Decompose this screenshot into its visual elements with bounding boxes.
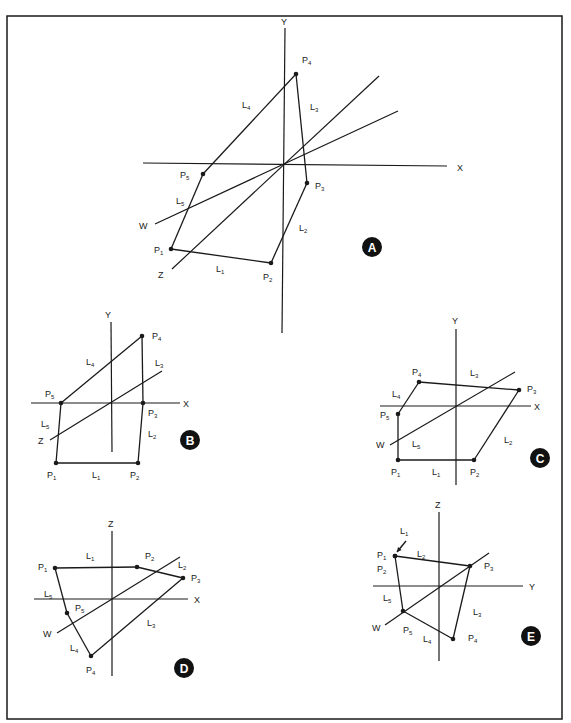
edge-label-l1: L1 (400, 526, 409, 537)
edge-label-l3: L3 (310, 102, 319, 113)
edge-label-l4: L4 (86, 357, 95, 368)
vertex-label-p1: P1 (38, 562, 48, 573)
edge-l1 (55, 567, 137, 568)
vertex-label-p4: P4 (86, 665, 96, 676)
edge-label-l5: L5 (412, 439, 421, 450)
vertex-label-p2: P2 (145, 551, 155, 562)
svg-text:B: B (186, 434, 195, 448)
panel-e: ZYWL1L2L3L4L5P1P2P3P4P5E (372, 500, 541, 661)
diagram-canvas: YXZWL1L2L3L4L5P1P2P3P4P5AYXZL1L2L3L4L5P1… (0, 0, 571, 723)
edge-label-l3: L3 (155, 358, 164, 369)
vertex-p5 (65, 611, 70, 616)
edge-label-l5: L5 (176, 196, 185, 207)
edge-label-l2: L2 (178, 560, 187, 571)
vertex-label-p2: P2 (470, 467, 480, 478)
vertex-label-p5: P5 (75, 603, 85, 614)
svg-text:D: D (180, 662, 189, 676)
vertex-label-p5: P5 (403, 625, 413, 636)
edge-label-l1: L1 (432, 467, 441, 478)
vertex-p2 (472, 458, 477, 463)
axis-label-z: Z (108, 519, 114, 529)
edge-l5 (395, 556, 403, 611)
axis-y (282, 28, 285, 333)
panel-d: ZXWL1L2L3L4L5P1P2P3P4P5D (34, 519, 201, 678)
edge-label-l1: L1 (216, 264, 225, 275)
edge-label-l2: L2 (417, 549, 426, 560)
svg-text:C: C (536, 452, 545, 466)
vertex-label-p2: P2 (377, 564, 387, 575)
axis-z (50, 371, 162, 440)
edge-l3 (296, 74, 307, 183)
axis-label-x: X (534, 402, 540, 412)
edge-label-l5: L5 (383, 593, 392, 604)
vertex-p4 (140, 334, 145, 339)
vertex-label-p3: P3 (484, 561, 494, 572)
svg-text:E: E (527, 630, 535, 644)
vertex-label-p1: P1 (47, 470, 57, 481)
vertex-p3 (141, 401, 146, 406)
edge-label-l5: L5 (44, 589, 53, 600)
edge-l2 (137, 567, 183, 578)
edge-label-l4: L4 (392, 389, 401, 400)
axis-label-w: W (43, 629, 52, 639)
vertex-p2 (136, 461, 141, 466)
vertex-label-p5: P5 (380, 410, 390, 421)
edge-label-l3: L3 (470, 368, 479, 379)
axis-label-y: Y (281, 17, 287, 27)
axis-label-w: W (139, 221, 148, 231)
vertex-p3 (305, 181, 310, 186)
vertex-p5 (396, 412, 401, 417)
vertex-p5 (201, 172, 206, 177)
panel-a: YXZWL1L2L3L4L5P1P2P3P4P5A (139, 17, 463, 333)
edge-label-l4: L4 (242, 100, 251, 111)
vertex-label-p3: P3 (315, 181, 325, 192)
vertex-p1 (53, 566, 58, 571)
edge-label-l1: L1 (86, 551, 95, 562)
edge-l2 (138, 403, 143, 463)
edge-label-l3: L3 (147, 618, 156, 629)
axis-label-w: W (376, 440, 385, 450)
edge-l2 (395, 556, 470, 566)
vertex-label-p4: P4 (412, 367, 422, 378)
vertex-label-p4: P4 (152, 331, 162, 342)
vertex-label-p4: P4 (302, 55, 312, 66)
edge-label-l2: L2 (148, 429, 157, 440)
axis-label-z: Z (38, 436, 44, 446)
vertex-label-p3: P3 (527, 384, 537, 395)
edge-label-l2: L2 (504, 435, 513, 446)
edge-l5 (171, 174, 203, 249)
panel-badge-d: D (174, 658, 194, 678)
axis-label-x: X (457, 163, 463, 173)
vertex-label-p1: P1 (154, 245, 164, 256)
axis-label-w: W (372, 623, 381, 633)
vertex-p2 (135, 565, 140, 570)
vertex-p3 (468, 564, 473, 569)
edge-l3 (91, 578, 183, 656)
vertex-p2 (269, 261, 274, 266)
edge-label-l4: L4 (70, 643, 79, 654)
edge-l4 (203, 74, 296, 174)
polygon-projection-diagram: YXZWL1L2L3L4L5P1P2P3P4P5AYXZL1L2L3L4L5P1… (0, 0, 571, 723)
vertex-p2 (393, 554, 398, 559)
axis-label-x: X (183, 399, 189, 409)
panel-badge-c: C (530, 448, 550, 468)
edge-l2 (474, 390, 519, 460)
edge-l3 (142, 336, 143, 403)
vertex-p5 (401, 609, 406, 614)
axis-label-x: X (194, 595, 200, 605)
vertex-label-p1: P1 (391, 467, 401, 478)
panel-badge-b: B (180, 430, 200, 450)
vertex-p4 (294, 72, 299, 77)
vertex-p1 (169, 247, 174, 252)
vertex-p3 (181, 576, 186, 581)
vertex-label-p2: P2 (130, 470, 140, 481)
edge-l5 (55, 568, 67, 613)
axis-label-y: Y (452, 316, 458, 326)
svg-text:A: A (368, 241, 377, 255)
axis-label-y: Y (529, 582, 535, 592)
vertex-p3 (517, 388, 522, 393)
vertex-p1 (396, 458, 401, 463)
edge-l4 (61, 336, 142, 403)
edge-label-l5: L5 (41, 419, 50, 430)
vertex-label-p4: P4 (468, 633, 478, 644)
